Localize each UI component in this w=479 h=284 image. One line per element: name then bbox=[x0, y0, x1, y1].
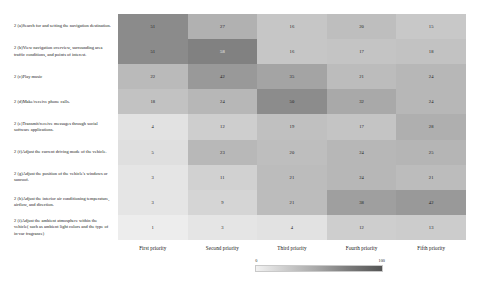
heatmap-cell: 11 bbox=[188, 165, 258, 190]
row-label: 2 (f)Adjust the current driving mode of … bbox=[14, 140, 118, 165]
heatmap-cell: 18 bbox=[396, 39, 466, 64]
heatmap-cell: 50 bbox=[257, 89, 327, 114]
heatmap-cell: 23 bbox=[188, 140, 258, 165]
row-label: 2 (a)Search for and setting the navigati… bbox=[14, 14, 118, 39]
heatmap-cell: 51 bbox=[118, 14, 188, 39]
heatmap-cell: 21 bbox=[327, 64, 397, 89]
heatmap-cell: 9 bbox=[188, 190, 258, 215]
x-tick-label: First priority bbox=[118, 245, 188, 251]
heatmap-cell: 42 bbox=[188, 64, 258, 89]
heatmap-cell: 17 bbox=[327, 39, 397, 64]
heatmap-cell: 24 bbox=[396, 64, 466, 89]
colorbar-ticks: 0 100 bbox=[255, 258, 383, 265]
x-tick-label: Fourth priority bbox=[327, 245, 397, 251]
heatmap-cell: 21 bbox=[257, 190, 327, 215]
row-label: 2 (h)Adjust the interior air conditionin… bbox=[14, 190, 118, 215]
heatmap-cell: 58 bbox=[188, 39, 258, 64]
plot-area: 2 (a)Search for and setting the navigati… bbox=[14, 14, 466, 240]
heatmap-cell: 21 bbox=[257, 165, 327, 190]
heatmap-cell: 3 bbox=[118, 190, 188, 215]
x-tick-label: Second priority bbox=[188, 245, 258, 251]
heatmap-cell: 18 bbox=[118, 89, 188, 114]
heatmap-cell: 25 bbox=[396, 140, 466, 165]
heatmap-cell: 32 bbox=[327, 89, 397, 114]
heatmap-cell: 1 bbox=[118, 215, 188, 240]
heatmap-cell: 12 bbox=[188, 114, 258, 139]
heatmap-cell: 3 bbox=[188, 215, 258, 240]
row-label: 2 (g)Adjust the position of the vehicle'… bbox=[14, 165, 118, 190]
colorbar-min-label: 0 bbox=[255, 258, 257, 263]
heatmap-cell: 19 bbox=[257, 114, 327, 139]
row-label: 2 (i)Adjust the ambient atmosphere withi… bbox=[14, 215, 118, 240]
heatmap-cell: 20 bbox=[327, 14, 397, 39]
heatmap-cell: 24 bbox=[327, 165, 397, 190]
heatmap-cell: 4 bbox=[118, 114, 188, 139]
heatmap-cell: 42 bbox=[396, 190, 466, 215]
heatmap-cell: 4 bbox=[257, 215, 327, 240]
heatmap-cell: 38 bbox=[327, 190, 397, 215]
row-label: 2 (b)View navigation overview, surroundi… bbox=[14, 39, 118, 64]
heatmap-cell: 28 bbox=[396, 114, 466, 139]
heatmap-cell: 20 bbox=[257, 140, 327, 165]
heatmap-cell: 16 bbox=[257, 39, 327, 64]
heatmap-cell: 17 bbox=[327, 114, 397, 139]
heatmap-cell: 3 bbox=[118, 165, 188, 190]
heatmap-cell: 51 bbox=[118, 39, 188, 64]
heatmap-cell: 12 bbox=[327, 215, 397, 240]
heatmap-cell: 35 bbox=[257, 64, 327, 89]
x-axis-tick-labels: First prioritySecond priorityThird prior… bbox=[118, 245, 466, 251]
heatmap-cell: 24 bbox=[396, 89, 466, 114]
x-tick-label: Third priority bbox=[257, 245, 327, 251]
heatmap-grid: 2 (a)Search for and setting the navigati… bbox=[14, 14, 466, 240]
heatmap-cell: 22 bbox=[118, 64, 188, 89]
heatmap-cell: 15 bbox=[396, 14, 466, 39]
row-label: 2 (c)Play music bbox=[14, 64, 118, 89]
heatmap-cell: 24 bbox=[188, 89, 258, 114]
x-tick-label: Fifth priority bbox=[396, 245, 466, 251]
heatmap-cell: 21 bbox=[396, 165, 466, 190]
heatmap-cell: 13 bbox=[396, 215, 466, 240]
colorbar-max-label: 100 bbox=[379, 258, 385, 263]
row-label: 2 (d)Make/receive phone calls. bbox=[14, 89, 118, 114]
heatmap-cell: 5 bbox=[118, 140, 188, 165]
colorbar: 0 100 bbox=[255, 258, 383, 278]
heatmap-figure: 2 (a)Search for and setting the navigati… bbox=[0, 0, 479, 284]
heatmap-cell: 16 bbox=[257, 14, 327, 39]
row-label: 2 (e)Transmit/receive messages through s… bbox=[14, 114, 118, 139]
heatmap-cell: 24 bbox=[327, 140, 397, 165]
colorbar-gradient bbox=[255, 265, 383, 272]
heatmap-cell: 27 bbox=[188, 14, 258, 39]
